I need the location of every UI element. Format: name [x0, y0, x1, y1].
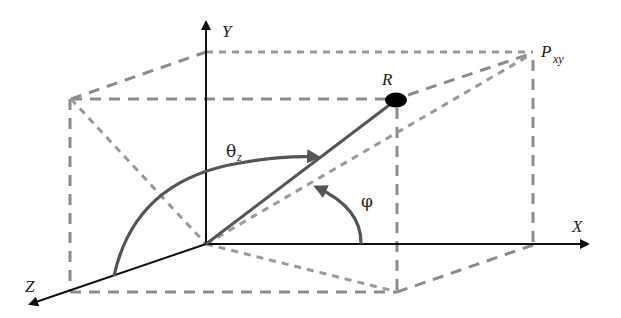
- theta-label-sub: z: [236, 150, 242, 164]
- top-left-edge: [71, 52, 206, 99]
- z-axis-label: Z: [25, 277, 35, 296]
- bottom-right-edge: [397, 245, 533, 292]
- axes: [30, 22, 588, 304]
- theta-arc-arrow: [114, 157, 318, 276]
- y-axis-label: Y: [222, 22, 233, 41]
- pxy-label: P xy: [540, 42, 564, 66]
- x-axis-label: X: [571, 217, 583, 236]
- theta-label: θ z: [226, 141, 242, 164]
- left-diagonal: [71, 99, 206, 244]
- origin-to-pxy-diagonal: [206, 55, 530, 244]
- phi-label: φ: [361, 191, 373, 211]
- bottom-diagonal: [206, 244, 390, 290]
- point-r-label: R: [381, 70, 393, 89]
- phi-arc-arrow: [316, 187, 361, 244]
- pxy-label-main: P: [540, 42, 551, 61]
- pxy-label-sub: xy: [552, 52, 564, 66]
- point-r: [385, 93, 407, 108]
- theta-label-main: θ: [226, 141, 236, 161]
- r-to-pxy-edge: [408, 53, 533, 95]
- z-axis: [30, 244, 206, 304]
- r-vector: [206, 103, 392, 244]
- spherical-coordinates-diagram: Y X Z R P xy θ z φ: [0, 0, 621, 318]
